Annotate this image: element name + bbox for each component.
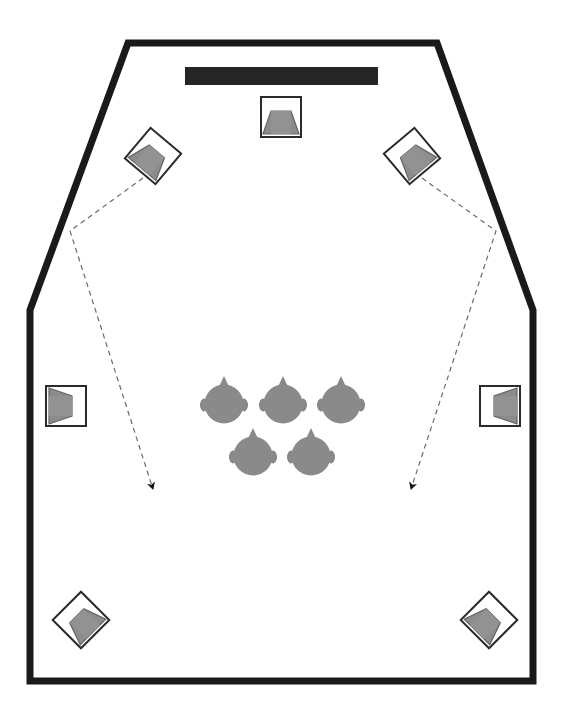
loudspeaker-icon-surround-right[interactable]	[480, 386, 520, 426]
room-outline	[30, 43, 533, 681]
room-layout-diagram	[0, 0, 565, 721]
screen-bar-icon	[185, 67, 378, 85]
loudspeaker-icon-surround-left[interactable]	[46, 386, 86, 426]
diagram-canvas	[0, 0, 565, 721]
loudspeaker-icon-front-center[interactable]	[261, 97, 301, 137]
